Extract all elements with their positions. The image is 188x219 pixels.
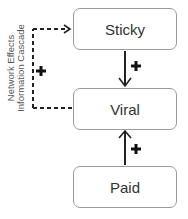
feedback-loop (33, 29, 72, 108)
node-viral: Viral (73, 88, 177, 130)
feedback-loop-label: Network Effects Information Cascade (6, 24, 26, 112)
node-paid: Paid (73, 166, 177, 208)
label-information-cascade: Information Cascade (16, 24, 26, 112)
plus-sign-paid-viral (131, 144, 141, 154)
plus-sign-loop (36, 66, 46, 76)
plus-sign-sticky-viral (131, 61, 141, 71)
node-sticky: Sticky (73, 8, 177, 50)
